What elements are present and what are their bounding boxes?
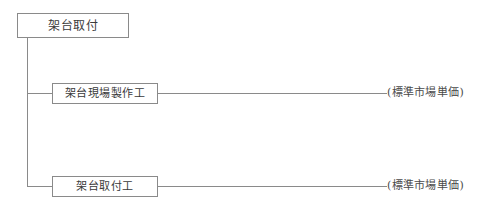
node-label-installation: 架台取付工 (76, 181, 134, 192)
annotation-installation-unit-price: (標準市場単価) (387, 180, 464, 191)
connector-trunk-vertical (27, 38, 28, 187)
node-label-root: 架台取付 (48, 20, 98, 32)
annotation-fabrication-unit-price: (標準市場単価) (387, 87, 464, 98)
node-box-fabrication[interactable]: 架台現場製作工 (52, 83, 158, 104)
node-box-installation[interactable]: 架台取付工 (52, 176, 158, 197)
connector-branch-installation (27, 186, 52, 187)
work-breakdown-diagram: 架台取付 架台現場製作工 (標準市場単価) 架台取付工 (標準市場単価) (0, 0, 492, 206)
leader-line-installation (158, 186, 387, 187)
node-label-fabrication: 架台現場製作工 (65, 88, 146, 99)
node-box-root[interactable]: 架台取付 (17, 13, 129, 38)
leader-line-fabrication (158, 93, 387, 94)
connector-branch-fabrication (27, 93, 52, 94)
